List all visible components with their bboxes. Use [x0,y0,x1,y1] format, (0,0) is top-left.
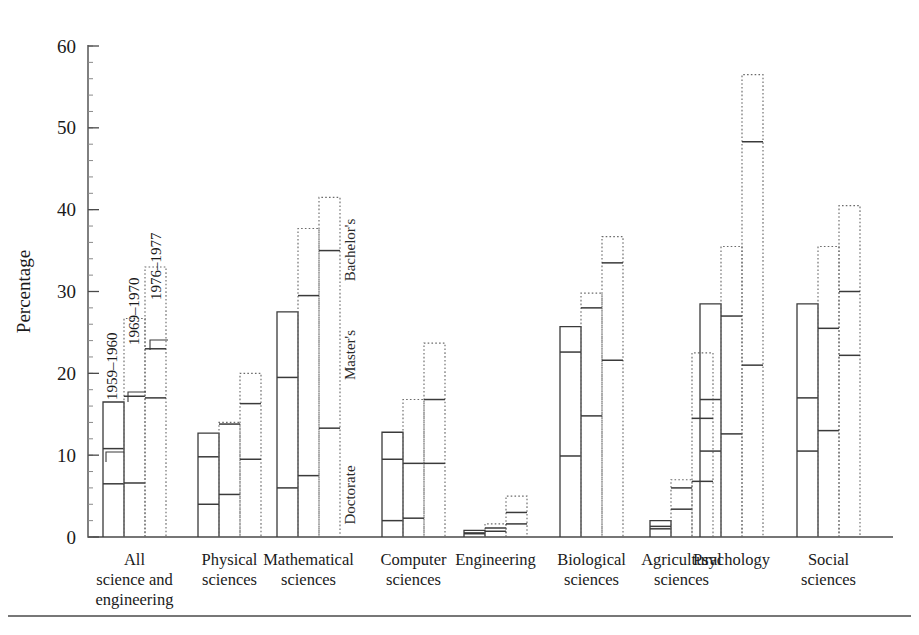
bar [124,319,145,537]
level-label-doctorate: Doctorate [342,465,358,524]
x-axis-category-label: sciences [801,570,856,589]
y-axis-tick-label: 30 [57,281,76,302]
bar [403,400,424,537]
series-leader-2 [128,392,146,402]
bar [506,496,527,537]
bar [581,293,602,537]
series-leader-1 [106,452,124,462]
bar [742,75,763,537]
bar-group [382,343,445,537]
x-axis-category-label: Biological [557,550,626,569]
bar-group [198,373,261,537]
chart-axes [88,45,893,537]
bar [298,228,319,537]
x-axis-category-label: Psychology [693,550,771,569]
bar [818,246,839,537]
bar [797,304,818,537]
bar [319,197,340,537]
bar [240,373,261,537]
grouped-bar-chart: 0102030405060PercentageAllscience andeng… [0,0,919,635]
series-label-1976-1977: 1976–1977 [148,232,164,300]
bar-group [560,237,623,537]
bar-group [464,496,527,537]
series-label-1969-1970: 1969–1970 [126,278,142,346]
level-label-masters: Master's [342,330,358,380]
x-axis-category-label: sciences [202,570,257,589]
x-axis-category-label: engineering [96,590,174,609]
bar [485,524,506,537]
x-axis-category-label: sciences [386,570,441,589]
bar [277,312,298,537]
x-axis-category-label: sciences [654,570,709,589]
x-axis-category-label: science and [96,570,173,589]
bar [721,246,742,537]
y-axis-tick-label: 20 [57,363,76,384]
bar [145,267,166,537]
bar-group [797,206,860,537]
bar [103,402,124,537]
y-axis-tick-label: 0 [67,527,77,548]
series-label-1959-1960: 1959–1960 [104,333,120,401]
y-axis-tick-label: 60 [57,36,76,57]
x-axis-category-label: All [124,550,146,569]
y-axis-tick-label: 10 [57,445,76,466]
x-axis-category-label: Engineering [455,550,536,569]
level-label-bachelors: Bachelor's [342,219,358,282]
y-axis-tick-label: 40 [57,199,76,220]
bar [692,353,713,537]
bar-group [277,197,340,537]
bar-group [650,353,713,537]
x-axis-category-label: Physical [202,550,258,569]
y-axis-tick-label: 50 [57,117,76,138]
bar [700,304,721,537]
y-axis-title: Percentage [13,250,34,333]
bar [219,422,240,537]
x-axis-category-label: Computer [381,550,447,569]
bar [424,343,445,537]
x-axis-category-label: Mathematical [263,550,354,569]
bar [839,206,860,537]
x-axis-category-label: sciences [281,570,336,589]
chart-page: 0102030405060PercentageAllscience andeng… [0,0,919,635]
bar [560,327,581,537]
x-axis-category-label: Social [808,550,850,569]
bar-group [700,75,763,537]
bar [602,237,623,537]
bar [198,433,219,537]
x-axis-category-label: sciences [564,570,619,589]
